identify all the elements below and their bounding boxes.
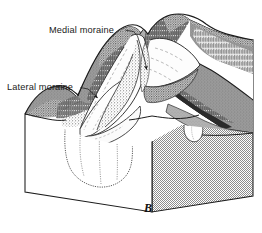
figure-root: Medial moraine Lateral moraine B [0, 0, 262, 233]
block-diagram: Medial moraine Lateral moraine B [0, 0, 262, 233]
label-medial-moraine: Medial moraine [49, 25, 114, 35]
label-lateral-moraine: Lateral moraine [7, 82, 73, 92]
panel-letter-b: B [143, 201, 152, 215]
